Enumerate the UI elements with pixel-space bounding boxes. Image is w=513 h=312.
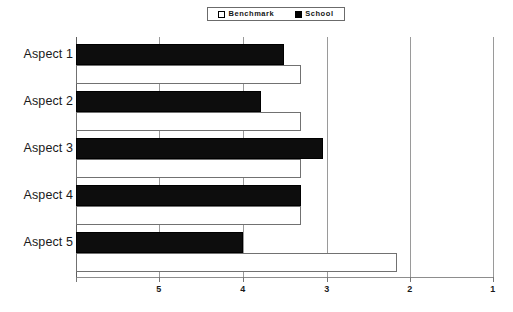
tick-2 [410, 277, 411, 282]
y-axis-label-aspect-1: Aspect 1 [3, 48, 73, 61]
bar-benchmark-5 [76, 253, 397, 272]
bar-benchmark-3 [76, 159, 301, 178]
filled-square-icon [295, 11, 302, 18]
tick-origin [76, 277, 77, 282]
y-axis-label-aspect-5: Aspect 5 [3, 236, 73, 249]
bar-school-3 [76, 138, 323, 159]
gridline-3 [327, 37, 328, 278]
bar-school-2 [76, 91, 261, 112]
x-axis-tick-label-3: 3 [324, 285, 329, 294]
legend-item-school: School [295, 10, 333, 18]
x-axis-tick-label-2: 2 [407, 285, 412, 294]
bar-benchmark-1 [76, 65, 301, 84]
x-axis-tick-label-4: 4 [240, 285, 245, 294]
tick-4 [243, 277, 244, 282]
y-axis-label-aspect-3: Aspect 3 [3, 142, 73, 155]
chart-legend: Benchmark School [207, 7, 345, 21]
y-axis-label-aspect-4: Aspect 4 [3, 189, 73, 202]
y-axis-labels: Aspect 1 Aspect 2 Aspect 3 Aspect 4 Aspe… [0, 0, 73, 312]
gridline-1 [493, 37, 494, 278]
tick-5 [159, 277, 160, 282]
gridline-2 [410, 37, 411, 278]
legend-item-benchmark: Benchmark [218, 10, 274, 18]
legend-label-school: School [305, 10, 333, 18]
tick-1 [493, 277, 494, 282]
bar-chart: Benchmark School Aspect 1 Aspect 2 Aspec… [0, 0, 513, 312]
x-axis-tick-label-1: 1 [490, 285, 495, 294]
x-axis-tick-label-5: 5 [156, 285, 161, 294]
legend-label-benchmark: Benchmark [228, 10, 274, 18]
bar-benchmark-4 [76, 206, 301, 225]
bar-school-5 [76, 232, 243, 253]
tick-3 [327, 277, 328, 282]
y-axis-label-aspect-2: Aspect 2 [3, 95, 73, 108]
hollow-square-icon [218, 11, 225, 18]
bar-school-1 [76, 44, 284, 65]
bar-school-4 [76, 185, 301, 206]
x-axis-line [76, 277, 494, 278]
bar-benchmark-2 [76, 112, 301, 131]
